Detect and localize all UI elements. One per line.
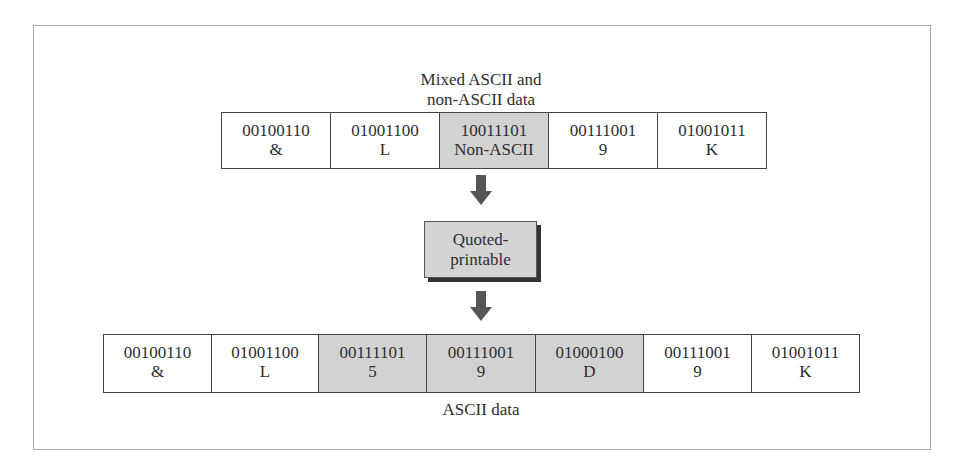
bottom-caption: ASCII data [381,400,581,420]
byte-bits: 00111001 [427,343,535,362]
top-caption: Mixed ASCII and non-ASCII data [321,70,641,110]
byte-char: D [536,362,643,381]
byte-cell: 00111001 9 [549,113,658,168]
byte-cell: 01001100 L [331,113,440,168]
byte-cell-encoded: 01000100 D [536,335,644,392]
byte-bits: 01001011 [752,343,859,362]
byte-cell-encoded: 00111001 9 [427,335,536,392]
byte-char: L [331,140,439,159]
byte-char: 5 [319,362,426,381]
byte-bits: 00111001 [644,343,751,362]
byte-bits: 00111101 [319,343,426,362]
byte-cell-non-ascii: 10011101 Non-ASCII [440,113,549,168]
byte-char: K [658,140,766,159]
byte-char: 9 [549,140,657,159]
ascii-data-row: 00100110 & 01001100 L 00111101 5 0011100… [103,334,860,393]
process-label-line1: Quoted- [425,230,536,250]
byte-char: Non-ASCII [440,140,548,159]
byte-bits: 00111001 [549,121,657,140]
byte-bits: 01001011 [658,121,766,140]
byte-cell: 01001011 K [658,113,766,168]
byte-cell: 00111001 9 [644,335,752,392]
byte-char: L [212,362,318,381]
byte-char: K [752,362,859,381]
byte-bits: 00100110 [104,343,211,362]
byte-cell: 00100110 & [222,113,331,168]
top-caption-line2: non-ASCII data [321,90,641,110]
byte-char: 9 [644,362,751,381]
byte-char: & [222,140,330,159]
byte-char: & [104,362,211,381]
byte-bits: 10011101 [440,121,548,140]
byte-cell: 00100110 & [104,335,212,392]
byte-bits: 01001100 [212,343,318,362]
mixed-data-row: 00100110 & 01001100 L 10011101 Non-ASCII… [221,112,767,169]
byte-bits: 00100110 [222,121,330,140]
byte-cell-encoded: 00111101 5 [319,335,427,392]
quoted-printable-box: Quoted- printable [424,221,537,278]
byte-bits: 01000100 [536,343,643,362]
top-caption-line1: Mixed ASCII and [321,70,641,90]
byte-char: 9 [427,362,535,381]
byte-cell: 01001100 L [212,335,319,392]
down-arrow-icon [470,175,492,205]
byte-bits: 01001100 [331,121,439,140]
byte-cell: 01001011 K [752,335,859,392]
process-label-line2: printable [425,250,536,270]
down-arrow-icon [470,291,492,321]
